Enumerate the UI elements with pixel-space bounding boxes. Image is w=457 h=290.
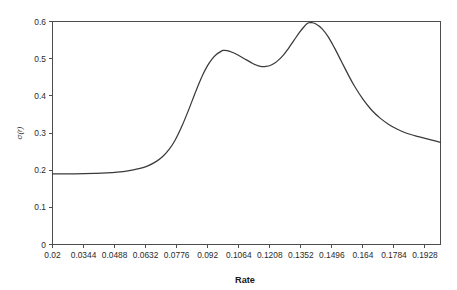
x-tick-label: 0.1496 — [319, 250, 345, 260]
x-tick-label: 0.0776 — [164, 250, 190, 260]
x-tick-label: 0.1064 — [226, 250, 252, 260]
y-tick-label: 0.4 — [34, 91, 46, 101]
y-tick-label: 0.6 — [34, 17, 46, 27]
x-tick-label: 0.1208 — [257, 250, 283, 260]
x-tick-label: 0.0344 — [71, 250, 97, 260]
y-tick-label: 0.1 — [34, 202, 46, 212]
x-tick-label: 0.164 — [352, 250, 373, 260]
x-tick-label: 0.0632 — [133, 250, 159, 260]
x-tick-label: 0.1928 — [412, 250, 438, 260]
x-axis-title: Rate — [235, 275, 255, 285]
x-tick-label: 0.092 — [197, 250, 218, 260]
y-tick-label: 0.3 — [34, 128, 46, 138]
sigma-vs-rate-line-chart: 0.020.03440.04880.06320.07760.0920.10640… — [0, 0, 457, 290]
x-tick-label: 0.0488 — [102, 250, 128, 260]
y-tick-label: 0 — [41, 240, 46, 250]
y-tick-label: 0.2 — [34, 165, 46, 175]
y-tick-label: 0.5 — [34, 54, 46, 64]
x-tick-label: 0.1784 — [381, 250, 407, 260]
chart-figure: 0.020.03440.04880.06320.07760.0920.10640… — [0, 0, 457, 290]
y-axis-title: σ(r) — [15, 126, 24, 139]
x-tick-label: 0.02 — [44, 250, 61, 260]
x-tick-label: 0.1352 — [288, 250, 314, 260]
chart-background — [0, 0, 457, 290]
